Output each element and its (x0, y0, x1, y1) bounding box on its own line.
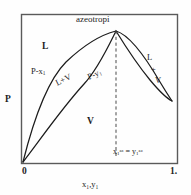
azeotrope-composition-label: x1az = y1az (113, 148, 143, 157)
phase-diagram-plot (0, 0, 191, 195)
region-label-right-liquid: L (147, 53, 152, 62)
region-label-right-vapor: V (155, 76, 161, 85)
curve-label-p-x1-subscript: 1 (43, 70, 46, 76)
az-equals-sign: = (126, 147, 131, 156)
phase-diagram-screenshot: azeotropi P L V P-x1 L+V P-y1 L + V x1az… (0, 0, 191, 195)
region-label-right-plus: + (151, 65, 156, 74)
az-x-superscript: az (119, 148, 123, 153)
curve-label-p-x1: P-x1 (31, 67, 45, 76)
x-axis-label: x₁,y₁ (82, 180, 99, 189)
az-y-superscript: az (139, 148, 143, 153)
x-axis-tick-right: 1. (170, 167, 177, 177)
region-label-liquid: L (42, 42, 48, 52)
x-axis-tick-left: 0 (22, 167, 27, 177)
region-label-vapor: V (87, 117, 94, 127)
chart-title: azeotropi (76, 15, 109, 24)
y-axis-label: P (5, 95, 11, 105)
curve-label-p-x1-text: P-x (31, 66, 43, 76)
